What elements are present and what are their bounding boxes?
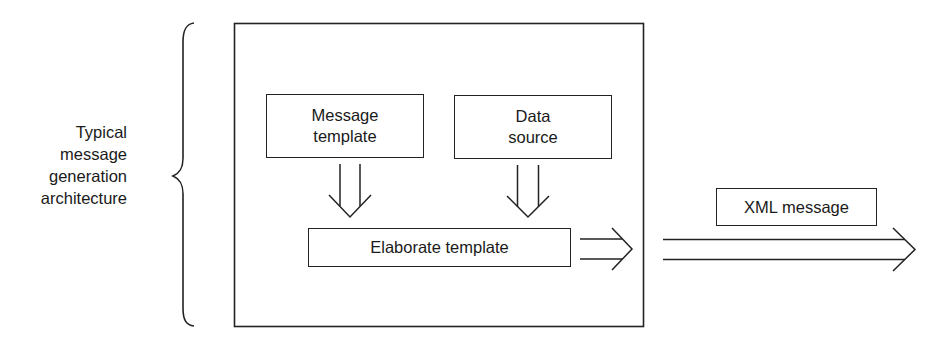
architecture-container-box [235, 24, 644, 327]
data-source-label: Data source [508, 106, 558, 148]
xml-message-label: XML message [744, 197, 849, 218]
arrow-data-source-to-elaborate-icon [507, 165, 549, 217]
curly-brace-icon [173, 23, 194, 326]
xml-message-node: XML message [716, 188, 877, 226]
message-template-node: Message template [266, 94, 424, 158]
elaborate-template-label: Elaborate template [370, 237, 509, 258]
arrow-xml-message-flow-icon [663, 228, 915, 271]
message-template-label: Message template [312, 105, 379, 147]
diagram-connectors [0, 0, 938, 343]
arrow-message-template-to-elaborate-icon [329, 164, 371, 217]
elaborate-template-node: Elaborate template [308, 228, 571, 267]
data-source-node: Data source [454, 95, 612, 159]
arrow-elaborate-out-icon [580, 228, 632, 270]
